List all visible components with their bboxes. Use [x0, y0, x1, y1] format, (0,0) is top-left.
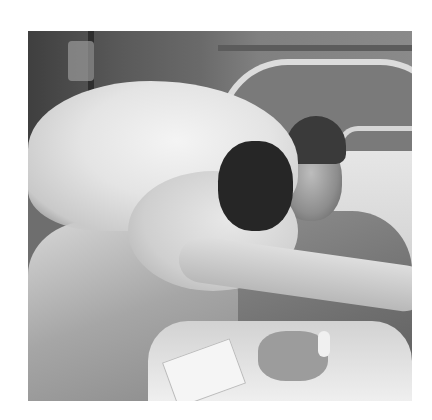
hospital-wristband — [318, 331, 330, 357]
photograph — [28, 31, 412, 401]
wall-rail — [218, 45, 412, 51]
iv-bag — [68, 41, 94, 81]
bride-hair — [218, 141, 293, 231]
